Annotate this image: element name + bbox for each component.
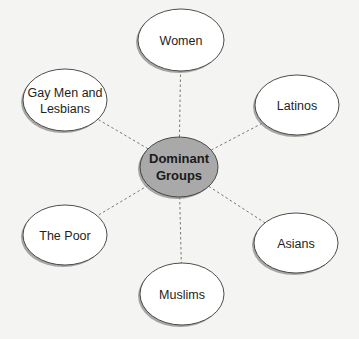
node-gay-men-and-lesbians: Gay Men andLesbians [21,69,107,133]
node-label-line: Women [160,34,203,48]
node-label-line: The Poor [39,229,90,243]
node-label-line: Asians [277,237,315,251]
ellipse-shape [23,69,107,131]
node-muslims: Muslims [138,263,224,327]
node-asians: Asians [252,213,338,275]
node-the-poor: The Poor [21,205,107,267]
connector-the-poor [97,185,148,215]
connector-gay-men-and-lesbians [98,119,148,148]
connector-muslims [180,197,182,263]
node-label-line: Groups [156,168,202,183]
dominant-groups-diagram: WomenGay Men andLesbiansLatinosThe PoorA… [0,0,359,339]
node-latinos: Latinos [253,75,339,137]
node-label-line: Lesbians [40,102,90,116]
node-label-line: Gay Men and [27,86,102,100]
connector-latinos [211,123,263,150]
node-dominant-groups: DominantGroups [138,137,218,199]
center-node: DominantGroups [138,137,218,199]
node-label-line: Latinos [277,99,317,113]
node-women: Women [136,9,224,73]
node-label-line: Muslims [159,288,205,302]
ellipse-shape [140,137,218,197]
node-label-line: Dominant [149,151,210,166]
connector-women [179,71,180,137]
connector-asians [209,186,265,222]
